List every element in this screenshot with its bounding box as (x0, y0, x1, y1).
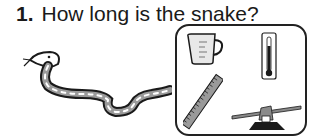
question: 1.How long is the snake? (16, 2, 259, 26)
snake-image (22, 48, 172, 120)
measuring-cup-icon[interactable] (185, 32, 225, 66)
question-text: How long is the snake? (42, 2, 259, 25)
thermometer-icon[interactable] (261, 32, 277, 80)
balance-scale-icon[interactable] (231, 94, 303, 132)
tool-choices-box (175, 24, 307, 136)
ruler-icon[interactable] (183, 72, 223, 132)
question-number: 1. (16, 2, 34, 25)
